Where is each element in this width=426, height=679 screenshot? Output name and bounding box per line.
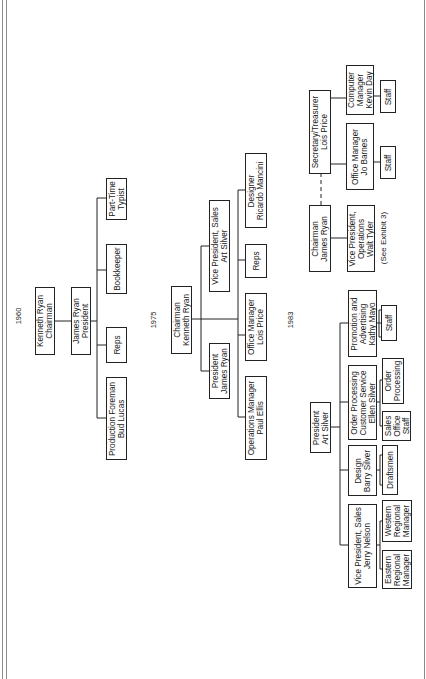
box-1960-bookkeeper: Bookkeeper <box>106 244 127 294</box>
box-label: Draftsmen <box>386 451 395 489</box>
box-label: President James Ryan <box>211 348 229 394</box>
box-1975-office-manager: Office Manager Lois Price <box>245 293 267 361</box>
box-1975-president: President James Ryan <box>209 343 230 399</box>
box-1983-vp-operations: Vice President, Operations Walt Tyler <box>347 205 375 272</box>
box-label: Staff <box>384 154 393 171</box>
box-label: Design Barry Silver <box>354 449 372 491</box>
box-1983-office-staff: Staff <box>380 146 396 179</box>
box-1983-sales-office-staff: Sales Office Staff <box>382 411 411 441</box>
box-label: President Art Silver <box>312 410 330 445</box>
document-page: 1960 Kenneth Ryan Chairman James Ryan Pr… <box>0 0 426 679</box>
box-1960-production-foreman: Production Foreman Bud Lucas <box>106 377 127 460</box>
box-label: Vice President, Sales Jerry Nelson <box>354 507 372 585</box>
box-label: Order Processing Customer Service Ellen … <box>349 370 376 435</box>
box-1975-chairman: Chairman Kenneth Ryan <box>171 286 192 354</box>
box-1975-vp-sales: Vice President, Sales Art Silver <box>209 200 230 292</box>
box-1983-computer-manager: Computer Manager Kevin Day <box>346 65 374 115</box>
box-label: Designer Ricardo Mancini <box>247 161 265 220</box>
box-1983-chairman: Chairman James Ryan <box>309 205 331 272</box>
box-label: Secretary/Treasurer Lois Price <box>311 96 329 169</box>
box-label: Office Manager Lois Price <box>247 299 265 355</box>
box-1983-draftsmen: Draftsmen <box>382 445 398 495</box>
box-label: James Ryan President <box>72 298 90 344</box>
box-label: Order Processing <box>384 361 402 402</box>
year-label-1960: 1960 <box>14 308 23 325</box>
box-1960-reps: Reps <box>106 327 127 363</box>
year-label-1975: 1975 <box>149 312 158 329</box>
box-1983-promotion-advertising: Promotion and Advertising Kathy Mayo <box>348 290 377 357</box>
box-label: Vice President, Sales Art Silver <box>211 207 229 285</box>
box-label: Production Foreman Bud Lucas <box>108 381 126 455</box>
box-1983-promotion-staff: Staff <box>381 305 397 341</box>
box-1975-designer: Designer Ricardo Mancini <box>245 153 267 228</box>
box-1983-vp-sales: Vice President, Sales Jerry Nelson <box>348 504 377 588</box>
box-1983-secretary-treasurer: Secretary/Treasurer Lois Price <box>309 90 331 174</box>
box-1983-president: President Art Silver <box>310 402 331 453</box>
box-1960-chairman: Kenneth Ryan Chairman <box>35 287 55 355</box>
box-label: Bookkeeper <box>112 247 121 291</box>
box-1960-part-time-typist: Part-Time Typist <box>106 178 127 220</box>
box-1983-western-regional-manager: Western Regional Manager <box>382 500 412 542</box>
box-1983-office-manager: Office Manager Jo Barnes <box>346 123 374 190</box>
box-label: Reps <box>112 335 121 354</box>
box-1983-eastern-regional-manager: Eastern Regional Manager <box>382 550 412 589</box>
box-1960-president: James Ryan President <box>71 287 91 355</box>
box-1975-operations-manager: Operations Manager Paul Ellis <box>245 376 267 460</box>
box-1975-reps: Reps <box>245 244 267 278</box>
box-label: Promotion and Advertising Kathy Mayo <box>349 297 376 350</box>
box-label: Staff <box>385 315 394 332</box>
box-label: Kenneth Ryan Chairman <box>36 295 54 347</box>
box-label: Staff <box>384 88 393 105</box>
box-label: Western Regional Manager <box>384 505 411 537</box>
box-label: Reps <box>252 251 261 270</box>
box-1983-order-processing-customer-service: Order Processing Customer Service Ellen … <box>348 365 377 440</box>
box-1983-computer-staff: Staff <box>380 80 396 113</box>
box-label: Sales Office Staff <box>383 415 410 436</box>
box-label: Chairman Kenneth Ryan <box>173 294 191 346</box>
box-label: Vice President, Operations Walt Tyler <box>348 211 375 266</box>
box-1983-order-processing: Order Processing <box>382 358 404 404</box>
box-label: Office Manager Jo Barnes <box>351 129 369 185</box>
box-label: Operations Manager Paul Ellis <box>247 381 265 456</box>
box-label: Chairman James Ryan <box>311 216 329 262</box>
box-label: Eastern Regional Manager <box>384 553 411 585</box>
year-label-1983: 1983 <box>286 312 295 329</box>
box-label: Part-Time Typist <box>108 181 126 217</box>
box-label: Computer Manager Kevin Day <box>347 71 374 108</box>
box-1983-design: Design Barry Silver <box>348 445 377 496</box>
see-exhibit-note: (See Exhibit 3) <box>379 212 388 264</box>
